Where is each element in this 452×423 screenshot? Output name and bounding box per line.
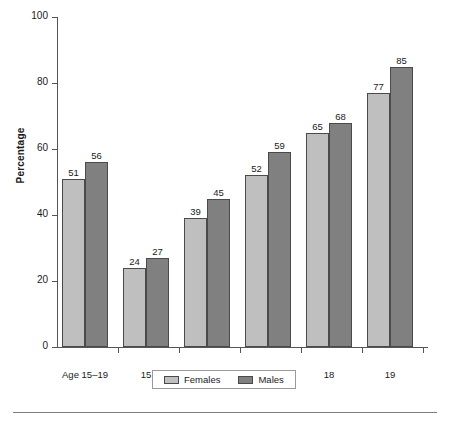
bar-males[interactable]: 56 — [85, 162, 108, 347]
legend-item-females[interactable]: Females — [164, 374, 220, 385]
y-tick-80: 80 — [52, 83, 57, 84]
bar-value-label: 27 — [152, 246, 163, 257]
x-tick-1 — [118, 348, 119, 353]
bar-females[interactable]: 65 — [306, 133, 329, 348]
chart-figure: Percentage 0 20 40 60 80 100 — [0, 0, 452, 423]
footer-divider — [13, 412, 437, 413]
bar-value-label: 51 — [68, 167, 79, 178]
x-category-label: 18 — [324, 369, 335, 380]
y-tick-20: 20 — [52, 281, 57, 282]
chart-legend: Females Males — [152, 370, 296, 389]
x-tick-5 — [362, 348, 363, 353]
y-axis-line — [57, 17, 58, 348]
x-tick-6 — [423, 348, 424, 353]
bar-value-label: 77 — [373, 81, 384, 92]
legend-label: Males — [258, 374, 283, 385]
x-axis-line — [57, 347, 428, 348]
bar-value-label: 59 — [274, 140, 285, 151]
x-category-label: 19 — [385, 369, 396, 380]
bar-value-label: 45 — [213, 187, 224, 198]
y-tick-label-20: 20 — [37, 274, 48, 285]
legend-swatch-icon — [238, 376, 253, 384]
x-tick-2 — [179, 348, 180, 353]
x-category-label: Age 15–19 — [62, 369, 108, 380]
x-tick-4 — [301, 348, 302, 353]
bar-females[interactable]: 24 — [123, 268, 146, 347]
bar-females[interactable]: 51 — [62, 179, 85, 347]
legend-swatch-icon — [164, 376, 179, 384]
bar-females[interactable]: 39 — [184, 218, 207, 347]
bar-value-label: 56 — [91, 150, 102, 161]
y-tick-label-80: 80 — [37, 76, 48, 87]
y-tick-label-60: 60 — [37, 142, 48, 153]
bar-value-label: 39 — [190, 206, 201, 217]
plot-area: 0 20 40 60 80 100 51 56 — [57, 17, 428, 347]
bar-value-label: 68 — [335, 111, 346, 122]
bar-males[interactable]: 59 — [268, 152, 291, 347]
bar-males[interactable]: 68 — [329, 123, 352, 347]
y-tick-label-0: 0 — [42, 340, 48, 351]
bar-males[interactable]: 85 — [390, 67, 413, 348]
y-tick-label-100: 100 — [31, 10, 48, 21]
bar-value-label: 65 — [312, 121, 323, 132]
x-tick-3 — [240, 348, 241, 353]
y-tick-0: 0 — [52, 347, 57, 348]
y-axis-title: Percentage — [15, 96, 26, 216]
bar-value-label: 52 — [251, 163, 262, 174]
bar-females[interactable]: 52 — [245, 175, 268, 347]
bar-males[interactable]: 45 — [207, 199, 230, 348]
x-category-label: 15 — [141, 369, 152, 380]
y-tick-100: 100 — [52, 17, 57, 18]
y-tick-40: 40 — [52, 215, 57, 216]
bar-value-label: 24 — [129, 256, 140, 267]
legend-item-males[interactable]: Males — [238, 374, 283, 385]
bar-value-label: 85 — [396, 55, 407, 66]
bar-males[interactable]: 27 — [146, 258, 169, 347]
y-tick-label-40: 40 — [37, 208, 48, 219]
bar-females[interactable]: 77 — [367, 93, 390, 347]
legend-label: Females — [184, 374, 220, 385]
y-tick-60: 60 — [52, 149, 57, 150]
